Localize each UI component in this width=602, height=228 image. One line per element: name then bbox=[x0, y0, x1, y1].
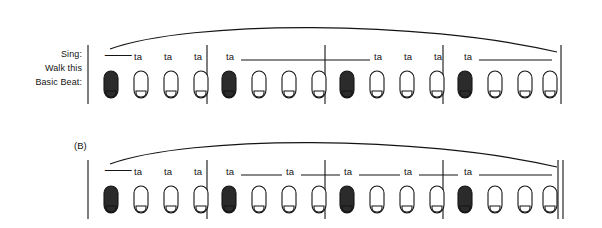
footprint-icon bbox=[134, 186, 148, 213]
footprint-icon bbox=[430, 71, 444, 98]
footprint-icon bbox=[164, 71, 178, 98]
footprint-icon bbox=[543, 71, 557, 98]
phrase-slur bbox=[110, 28, 557, 52]
footprint-icon bbox=[340, 71, 354, 98]
footprint-icon bbox=[194, 71, 208, 98]
footprint-icon bbox=[518, 71, 532, 98]
footprint-icon bbox=[252, 186, 266, 213]
footprint-icon bbox=[252, 71, 266, 98]
notation-vector-layer bbox=[0, 0, 602, 228]
footprint-icon bbox=[194, 186, 208, 213]
footprint-icon bbox=[370, 186, 384, 213]
footprint-icon bbox=[400, 186, 414, 213]
phrase-slur bbox=[110, 143, 557, 167]
system-b bbox=[88, 143, 563, 219]
footprint-icon bbox=[488, 71, 502, 98]
footprint-icon bbox=[370, 71, 384, 98]
footprint-icon bbox=[104, 186, 118, 213]
footprint-icon bbox=[222, 71, 236, 98]
footprint-icon bbox=[222, 186, 236, 213]
footprint-icon bbox=[400, 71, 414, 98]
footprint-icon bbox=[312, 71, 326, 98]
footprint-icon bbox=[458, 71, 472, 98]
footprint-icon bbox=[458, 186, 472, 213]
footprint-icon bbox=[543, 186, 557, 213]
footprint-icon bbox=[518, 186, 532, 213]
system-a bbox=[88, 28, 561, 104]
footprint-icon bbox=[282, 186, 296, 213]
footprint-icon bbox=[488, 186, 502, 213]
footprint-icon bbox=[282, 71, 296, 98]
footprint-icon bbox=[104, 71, 118, 98]
footprint-icon bbox=[340, 186, 354, 213]
footprint-icon bbox=[164, 186, 178, 213]
footprint-icon bbox=[134, 71, 148, 98]
footprint-icon bbox=[312, 186, 326, 213]
footprint-icon bbox=[430, 186, 444, 213]
